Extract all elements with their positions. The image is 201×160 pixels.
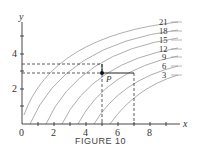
- curve-3: [110, 75, 178, 124]
- point-p-label: P: [105, 74, 112, 84]
- y-tick-2: 2: [12, 83, 17, 94]
- curve-label-3: 3: [162, 70, 166, 80]
- x-axis-label: x: [182, 118, 188, 129]
- y-tick-4: 4: [12, 48, 17, 59]
- figure-caption: FIGURE 10: [0, 136, 201, 146]
- axes: [20, 22, 180, 126]
- y-axis-label: y: [18, 11, 24, 22]
- curve-21: [24, 22, 178, 115]
- curve-12: [62, 48, 178, 124]
- point-p-marker: [100, 71, 104, 75]
